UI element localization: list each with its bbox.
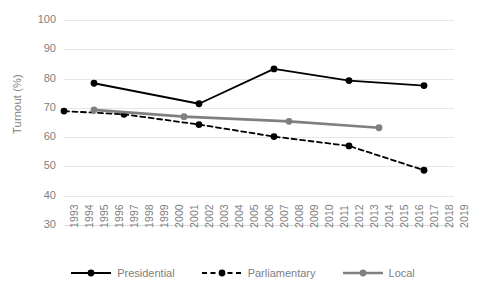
legend-label: Presidential bbox=[117, 267, 174, 279]
x-tick-label: 2007 bbox=[278, 204, 290, 228]
x-tick-label: 2013 bbox=[368, 204, 380, 228]
legend-label: Local bbox=[389, 267, 415, 279]
data-point bbox=[421, 167, 428, 174]
data-point bbox=[196, 100, 203, 107]
x-tick-label: 2014 bbox=[383, 204, 395, 228]
plot-area bbox=[64, 20, 454, 225]
y-tick-label: 60 bbox=[16, 130, 56, 142]
x-tick-label: 2016 bbox=[413, 204, 425, 228]
x-tick-label: 2002 bbox=[203, 204, 215, 228]
x-tick-label: 2009 bbox=[308, 204, 320, 228]
series-line bbox=[94, 69, 424, 104]
series-local bbox=[91, 107, 383, 132]
y-tick-label: 100 bbox=[16, 13, 56, 25]
x-tick-label: 1999 bbox=[158, 204, 170, 228]
x-tick-label: 1995 bbox=[98, 204, 110, 228]
x-tick-label: 1998 bbox=[143, 204, 155, 228]
data-point bbox=[61, 108, 68, 115]
data-point bbox=[91, 107, 98, 114]
x-tick-label: 2008 bbox=[293, 204, 305, 228]
series-layer bbox=[64, 20, 454, 225]
data-point bbox=[286, 118, 293, 125]
x-tick-label: 2015 bbox=[398, 204, 410, 228]
x-tick-label: 1997 bbox=[128, 204, 140, 228]
data-point bbox=[421, 82, 428, 89]
legend-swatch-parliamentary bbox=[201, 267, 243, 279]
x-tick-label: 2017 bbox=[428, 204, 440, 228]
data-point bbox=[346, 143, 353, 150]
legend-swatch-local bbox=[342, 267, 384, 279]
x-tick-label: 2006 bbox=[263, 204, 275, 228]
legend-label: Parliamentary bbox=[248, 267, 316, 279]
y-tick-label: 30 bbox=[16, 218, 56, 230]
y-tick-label: 50 bbox=[16, 159, 56, 171]
x-tick-label: 2018 bbox=[443, 204, 455, 228]
x-tick-label: 2012 bbox=[353, 204, 365, 228]
x-tick-label: 2011 bbox=[338, 205, 350, 228]
x-tick-label: 2004 bbox=[233, 204, 245, 228]
legend-swatch-presidential bbox=[70, 267, 112, 279]
data-point bbox=[376, 124, 383, 131]
data-point bbox=[181, 113, 188, 120]
x-tick-label: 2003 bbox=[218, 204, 230, 228]
series-parliamentary bbox=[61, 108, 428, 174]
series-presidential bbox=[91, 66, 428, 108]
y-tick-label: 80 bbox=[16, 72, 56, 84]
x-tick-label: 2001 bbox=[188, 204, 200, 228]
legend-item-presidential[interactable]: Presidential bbox=[70, 267, 174, 279]
x-tick-label: 1996 bbox=[113, 204, 125, 228]
x-tick-label: 2019 bbox=[458, 204, 470, 228]
data-point bbox=[271, 66, 278, 73]
series-line bbox=[94, 110, 379, 128]
x-tick-label: 2000 bbox=[173, 204, 185, 228]
data-point bbox=[91, 80, 98, 87]
legend-item-local[interactable]: Local bbox=[342, 267, 415, 279]
data-point bbox=[346, 77, 353, 84]
data-point bbox=[196, 121, 203, 128]
turnout-line-chart: Turnout (%) 10090807060504030 1993199419… bbox=[0, 0, 485, 292]
x-tick-label: 2005 bbox=[248, 204, 260, 228]
y-tick-label: 40 bbox=[16, 189, 56, 201]
data-point bbox=[271, 133, 278, 140]
y-tick-label: 70 bbox=[16, 101, 56, 113]
x-tick-label: 2010 bbox=[323, 204, 335, 228]
chart-legend: PresidentialParliamentaryLocal bbox=[0, 263, 485, 283]
y-tick-label: 90 bbox=[16, 42, 56, 54]
x-tick-label: 1993 bbox=[68, 204, 80, 228]
x-tick-label: 1994 bbox=[83, 204, 95, 228]
legend-item-parliamentary[interactable]: Parliamentary bbox=[201, 267, 316, 279]
